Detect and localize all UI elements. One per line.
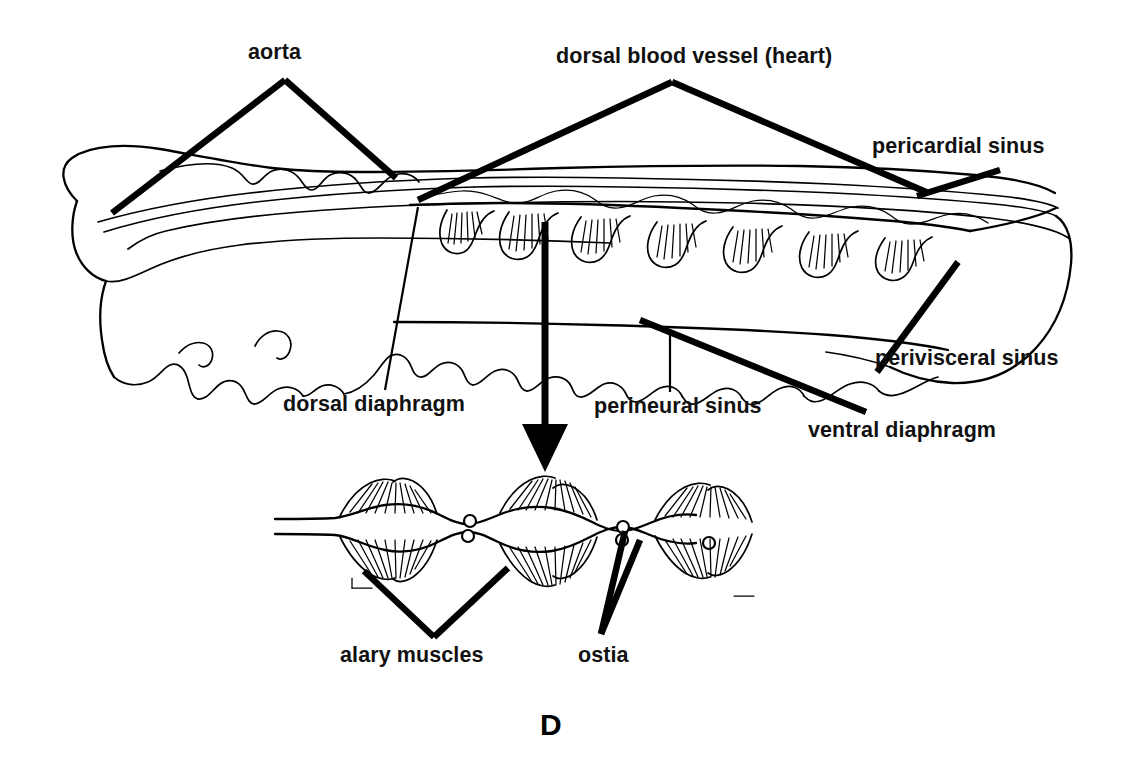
alary-muscle-fan	[340, 478, 437, 516]
ostium-opening	[703, 537, 715, 549]
figure-root: aorta dorsal blood vessel (heart) perica…	[0, 0, 1124, 780]
dorsal-diaphragm-with-alary-muscles	[410, 203, 970, 280]
label-perivisceral-sinus: perivisceral sinus	[875, 348, 1058, 370]
diagram-canvas	[0, 0, 1124, 780]
label-dorsal-blood-vessel: dorsal blood vessel (heart)	[556, 46, 832, 68]
ostium-opening	[464, 515, 476, 527]
panel-letter: D	[540, 710, 562, 740]
heart-detail-inset	[275, 476, 754, 637]
leader-dorsal-blood-vessel	[418, 82, 926, 200]
label-ventral-diaphragm: ventral diaphragm	[808, 420, 996, 442]
label-pericardial-sinus: pericardial sinus	[872, 136, 1045, 158]
label-ostia: ostia	[578, 645, 629, 667]
alary-muscle-fan	[340, 537, 437, 588]
alary-muscle-fan	[500, 476, 597, 520]
ostium-opening	[462, 530, 474, 542]
leader-dorsal-diaphragm	[385, 207, 418, 390]
down-arrow-icon	[522, 222, 568, 472]
head-region-outline	[72, 201, 1070, 404]
label-dorsal-diaphragm: dorsal diaphragm	[283, 394, 465, 416]
label-alary-muscles: alary muscles	[340, 645, 484, 667]
label-perineural-sinus: perineural sinus	[594, 396, 762, 418]
label-aorta: aorta	[248, 42, 301, 64]
